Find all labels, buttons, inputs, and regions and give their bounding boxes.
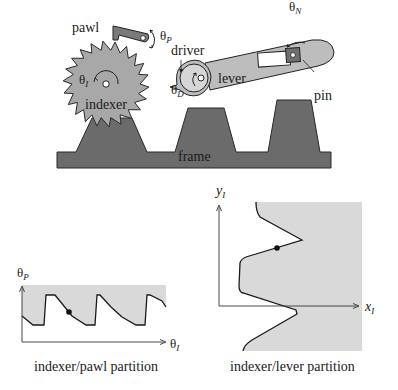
pawl (113, 26, 155, 48)
indexer-mechanism-diagram: pawl θP driver θN θI θD lever pin indexe… (0, 0, 398, 390)
lever-label: lever (218, 71, 246, 86)
lever-x-axis-label: xI (364, 299, 375, 316)
pawl-plot-caption: indexer/pawl partition (34, 359, 158, 374)
pawl-partition-plot: θP θI indexer/pawl partition (17, 265, 180, 374)
lever-config-point (274, 245, 280, 251)
driver-label: driver (171, 43, 205, 58)
pawl-x-axis-label: θI (170, 336, 180, 353)
lever-plot-caption: indexer/lever partition (230, 359, 355, 374)
frame-label: frame (178, 149, 211, 164)
pawl-config-point (66, 309, 72, 315)
lever-partition-plot: yI xI indexer/lever partition (214, 183, 375, 374)
pawl-free-region (22, 285, 166, 325)
indexer-axle-icon (103, 81, 109, 87)
pawl-pivot-icon (141, 36, 146, 41)
driver-pin-icon (198, 75, 204, 81)
theta-n-label: θN (289, 0, 302, 16)
pin-label: pin (314, 88, 332, 103)
lever-y-axis-label: yI (214, 183, 226, 200)
lever-free-region (239, 202, 362, 351)
pawl-y-axis-label: θP (17, 265, 29, 282)
indexer-gear (63, 41, 149, 127)
indexer-label: indexer (85, 97, 127, 112)
pawl-label: pawl (72, 20, 99, 35)
pin-icon (291, 53, 296, 58)
